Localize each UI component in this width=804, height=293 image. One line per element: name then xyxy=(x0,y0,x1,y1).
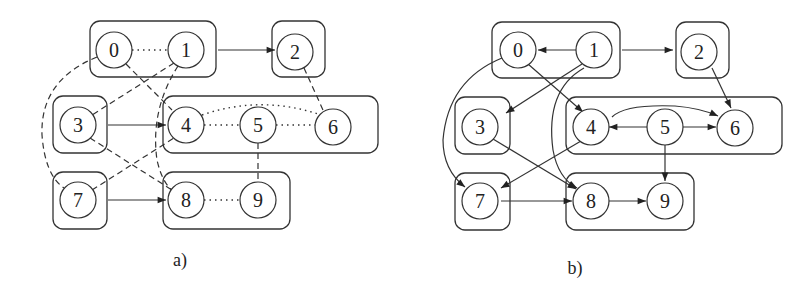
svg-text:3: 3 xyxy=(475,116,485,138)
svg-text:1: 1 xyxy=(181,39,191,61)
svg-text:8: 8 xyxy=(586,190,596,212)
edge-dashed-1-3 xyxy=(92,63,174,115)
node-a-2: 2 xyxy=(277,34,313,70)
edge-dashed-3-8 xyxy=(90,138,172,190)
svg-text:0: 0 xyxy=(513,39,523,61)
panel-a: 0 1 2 3 4 5 6 7 8 9 a) xyxy=(42,21,378,271)
node-b-6: 6 xyxy=(717,110,753,146)
node-b-8: 8 xyxy=(573,183,609,219)
edge-dashed-2-6 xyxy=(304,68,323,110)
svg-text:8: 8 xyxy=(181,189,191,211)
edge-3-8 xyxy=(493,139,576,189)
caption-a: a) xyxy=(173,250,187,271)
node-a-1: 1 xyxy=(168,32,204,68)
node-b-2: 2 xyxy=(681,34,717,70)
svg-text:0: 0 xyxy=(109,39,119,61)
node-a-7: 7 xyxy=(60,182,96,218)
edge-2-6 xyxy=(712,68,731,108)
svg-text:5: 5 xyxy=(660,116,670,138)
node-a-5: 5 xyxy=(240,107,276,143)
svg-text:6: 6 xyxy=(328,116,338,138)
svg-text:3: 3 xyxy=(73,114,83,136)
svg-text:9: 9 xyxy=(660,190,670,212)
svg-text:2: 2 xyxy=(290,41,300,63)
node-a-0: 0 xyxy=(96,32,132,68)
node-a-4: 4 xyxy=(168,107,204,143)
svg-text:1: 1 xyxy=(589,39,599,61)
edge-dashed-7-4 xyxy=(92,138,174,190)
caption-b: b) xyxy=(568,258,583,279)
node-b-7: 7 xyxy=(462,183,498,219)
node-a-6: 6 xyxy=(315,109,351,145)
edge-4-7 xyxy=(501,141,581,188)
node-a-8: 8 xyxy=(168,182,204,218)
node-a-3: 3 xyxy=(60,107,96,143)
edge-dashed-0-4 xyxy=(126,64,172,110)
svg-text:5: 5 xyxy=(253,114,263,136)
node-b-4: 4 xyxy=(573,109,609,145)
node-b-9: 9 xyxy=(647,183,683,219)
figure-canvas: 0 1 2 3 4 5 6 7 8 9 a) 0 1 xyxy=(0,0,804,293)
svg-text:6: 6 xyxy=(730,117,740,139)
svg-text:2: 2 xyxy=(694,41,704,63)
svg-text:4: 4 xyxy=(586,116,596,138)
node-b-3: 3 xyxy=(462,109,498,145)
node-b-1: 1 xyxy=(576,32,612,68)
svg-text:7: 7 xyxy=(475,190,485,212)
svg-text:9: 9 xyxy=(253,189,263,211)
edge-1-3 xyxy=(506,64,582,113)
panel-b: 0 1 2 3 4 5 6 7 8 9 b) xyxy=(443,22,782,279)
svg-text:7: 7 xyxy=(73,189,83,211)
svg-text:4: 4 xyxy=(181,114,191,136)
node-b-0: 0 xyxy=(500,32,536,68)
node-b-5: 5 xyxy=(647,109,683,145)
node-a-9: 9 xyxy=(240,182,276,218)
